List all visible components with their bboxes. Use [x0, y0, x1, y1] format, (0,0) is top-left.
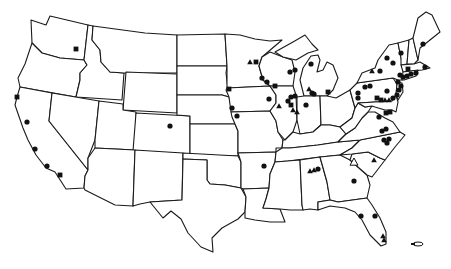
circle-marker: [377, 68, 382, 73]
circle-marker: [372, 213, 377, 218]
circle-marker: [367, 83, 372, 88]
state-michigan-lower: [300, 55, 338, 96]
puerto-rico-inset: [411, 242, 423, 246]
state-montana: [92, 26, 177, 73]
square-marker: [388, 110, 393, 115]
circle-marker: [44, 163, 49, 168]
circle-marker: [413, 70, 418, 75]
square-marker: [326, 90, 331, 95]
circle-marker: [355, 90, 360, 95]
circle-marker: [261, 163, 266, 168]
circle-marker: [384, 88, 389, 93]
state-south-dakota: [177, 66, 229, 97]
square-marker: [254, 60, 259, 65]
circle-marker: [311, 91, 316, 96]
circle-marker: [292, 93, 297, 98]
circle-marker: [396, 87, 401, 92]
circle-marker: [266, 96, 271, 101]
circle-marker: [303, 102, 308, 107]
square-marker: [74, 47, 79, 52]
circle-marker: [358, 213, 363, 218]
state-florida: [318, 198, 386, 246]
circle-marker: [355, 95, 360, 100]
state-north-dakota: [177, 34, 227, 66]
circle-marker: [422, 64, 427, 69]
circle-marker: [384, 140, 389, 145]
state-colorado: [133, 113, 190, 154]
circle-marker: [384, 55, 389, 60]
circle-marker: [24, 119, 29, 124]
circle-marker: [229, 105, 234, 110]
square-marker: [273, 84, 278, 89]
square-marker: [289, 103, 294, 108]
state-wyoming: [123, 72, 177, 113]
circle-marker: [362, 84, 367, 89]
circle-marker: [32, 146, 37, 151]
state-new-york: [357, 43, 404, 83]
circle-marker: [390, 60, 395, 65]
circle-marker: [383, 126, 388, 131]
circle-marker: [287, 69, 292, 74]
state-maine: [413, 12, 440, 60]
circle-marker: [259, 75, 264, 80]
state-new-mexico: [133, 150, 183, 206]
circle-marker: [376, 114, 381, 119]
square-marker: [406, 67, 411, 72]
square-marker: [227, 87, 232, 92]
circle-marker: [351, 178, 356, 183]
circle-marker: [408, 71, 413, 76]
state-arizona: [84, 148, 135, 206]
circle-marker: [264, 79, 269, 84]
state-kansas: [190, 124, 238, 156]
circle-marker: [292, 67, 297, 72]
square-marker: [58, 173, 63, 178]
circle-marker: [398, 50, 403, 55]
square-marker: [15, 95, 20, 100]
us-map: [0, 0, 451, 269]
circle-marker: [285, 98, 290, 103]
circle-marker: [308, 61, 313, 66]
circle-marker: [167, 123, 172, 128]
circle-marker: [315, 166, 320, 171]
circle-marker: [234, 113, 239, 118]
circle-marker: [420, 41, 425, 46]
circle-marker: [390, 95, 395, 100]
